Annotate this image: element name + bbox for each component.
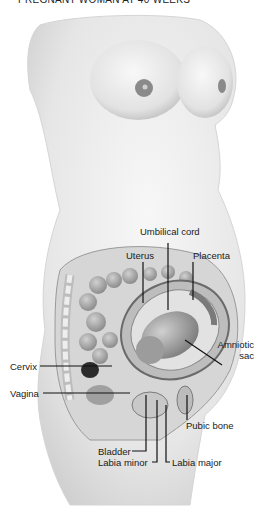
- label-placenta: Placenta: [193, 250, 230, 261]
- label-amniotic-sac-line1: Amniotic: [214, 339, 254, 350]
- label-pubic-bone: Pubic bone: [186, 420, 234, 431]
- breast-right: [177, 46, 233, 118]
- label-umbilical-cord: Umbilical cord: [140, 226, 200, 237]
- label-uterus: Uterus: [126, 250, 154, 261]
- label-labia-major: Labia major: [172, 457, 222, 468]
- label-labia-minor: Labia minor: [98, 457, 148, 468]
- label-bladder: Bladder: [98, 446, 131, 457]
- label-amniotic-sac-line2: sac: [214, 350, 254, 361]
- label-cervix: Cervix: [10, 361, 37, 372]
- label-vagina: Vagina: [10, 388, 39, 399]
- breast-left: [90, 40, 186, 120]
